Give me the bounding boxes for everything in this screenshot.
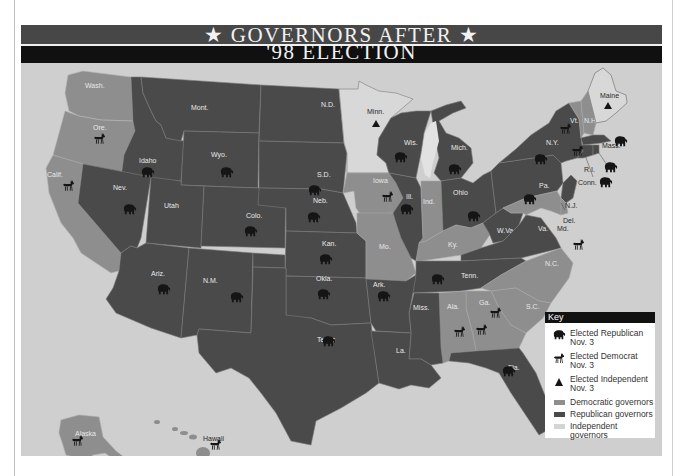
elephant-icon [605,162,617,172]
svg-text:Nev.: Nev. [113,184,127,191]
state-fla[interactable]: Fla. [449,348,551,435]
svg-text:Pa.: Pa. [539,182,550,189]
map-subtitle: '98 ELECTION [21,41,662,63]
state-wyo[interactable]: Wyo. [181,131,259,188]
label-del: Del. [563,217,576,224]
independent-swatch [554,424,565,429]
svg-text:Ky.: Ky. [448,241,458,249]
state-wash[interactable]: Wash. [65,71,133,121]
svg-text:Va.: Va. [538,225,548,232]
svg-text:Minn.: Minn. [367,108,384,115]
svg-text:Ind.: Ind. [423,198,435,205]
elephant-icon [552,329,566,341]
svg-text:Ark.: Ark. [373,281,386,288]
svg-text:Ariz.: Ariz. [151,270,165,277]
state-nm[interactable]: N.M. [181,248,253,338]
page-edge [672,0,673,476]
state-maine[interactable]: Maine [588,68,627,123]
label-nj: N.J. [565,202,578,209]
state-miss[interactable]: Miss. [409,293,443,365]
svg-text:Iowa: Iowa [373,177,388,184]
state-nd[interactable]: N.D. [259,85,344,143]
svg-text:Mont.: Mont. [191,104,209,111]
svg-text:Ohio: Ohio [453,189,468,196]
svg-text:Wyo.: Wyo. [211,151,227,159]
svg-text:Tenn.: Tenn. [461,272,478,279]
svg-text:Maine: Maine [600,92,619,99]
elephant-icon [600,177,612,187]
svg-text:Okla.: Okla. [316,275,332,282]
svg-text:N.C.: N.C. [545,260,559,267]
donkey-icon [552,352,566,364]
svg-text:Neb.: Neb. [313,197,328,204]
svg-text:Kan.: Kan. [322,240,336,247]
svg-text:La.: La. [396,347,406,354]
svg-text:Utah: Utah [164,202,179,209]
svg-text:Mich.: Mich. [451,144,468,151]
republican-swatch [554,412,565,417]
state-hawaii[interactable]: Hawaii [154,420,224,456]
page-edge [14,0,15,476]
state-ark[interactable]: Ark. [366,275,416,333]
svg-text:Alaska: Alaska [75,430,96,437]
svg-text:Idaho: Idaho [139,157,157,164]
map-legend: Key Elected RepublicanNov. 3 Elected Dem… [545,312,655,438]
state-ny[interactable]: N.Y. [499,103,583,163]
donkey-icon [573,239,584,250]
svg-text:Colo.: Colo. [246,212,262,219]
svg-text:Hawaii: Hawaii [203,435,224,442]
svg-text:N.D.: N.D. [321,101,335,108]
democratic-swatch [554,400,565,405]
svg-text:Wash.: Wash. [85,82,105,89]
legend-title: Key [545,312,655,323]
svg-text:Calif.: Calif. [47,171,63,178]
svg-text:S.C.: S.C. [526,303,540,310]
svg-text:Ala.: Ala. [447,303,459,310]
svg-text:Miss.: Miss. [413,304,429,311]
svg-text:Ga.: Ga. [479,299,490,306]
state-nj[interactable] [561,175,577,203]
svg-text:Ore.: Ore. [93,124,107,131]
svg-text:N.Y.: N.Y. [546,139,559,146]
label-md: Md. [557,225,569,232]
svg-text:Ill.: Ill. [406,193,413,200]
state-utah[interactable]: Utah [146,177,204,248]
svg-text:Mo.: Mo. [379,243,391,250]
state-sd[interactable]: S.D. [259,141,347,193]
svg-text:Vt.: Vt. [570,117,579,124]
state-alaska[interactable]: Alaska [59,415,131,456]
triangle-icon [552,375,566,387]
label-conn: Conn. [578,179,597,186]
svg-text:S.D.: S.D. [317,171,331,178]
state-ri[interactable] [593,145,599,155]
svg-text:N.M.: N.M. [203,277,218,284]
elephant-icon [615,136,627,146]
svg-text:Wis.: Wis. [404,139,418,146]
